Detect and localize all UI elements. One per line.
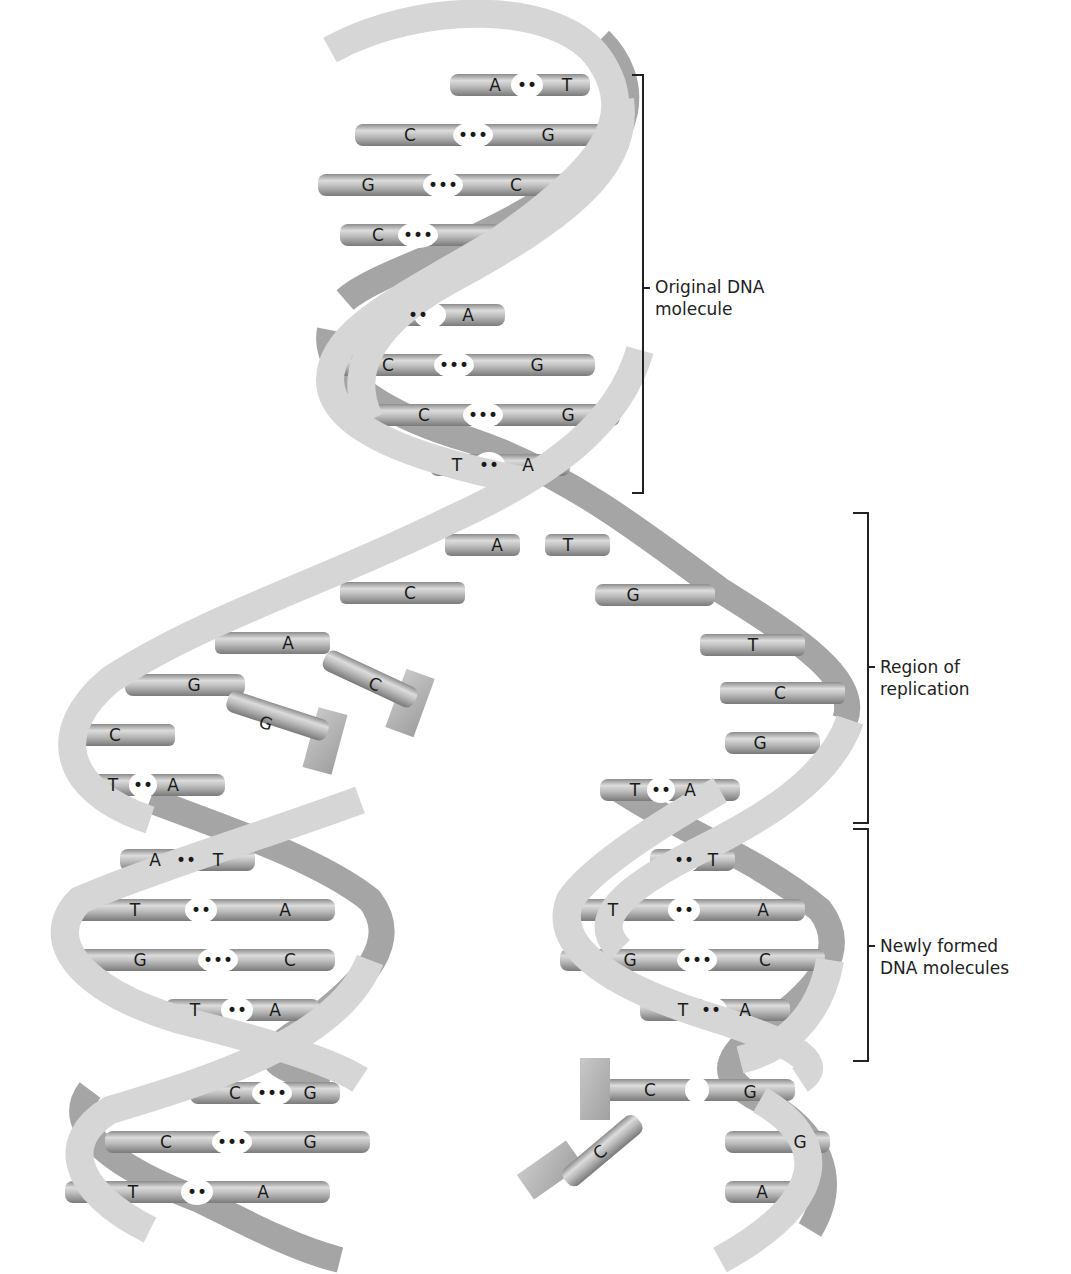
svg-text:G: G bbox=[303, 1132, 316, 1152]
svg-text:C: C bbox=[418, 405, 430, 425]
svg-text:A: A bbox=[269, 1000, 281, 1020]
svg-text:G: G bbox=[303, 1083, 316, 1103]
svg-text:T: T bbox=[127, 1182, 139, 1202]
svg-text:G: G bbox=[541, 125, 554, 145]
svg-text:T: T bbox=[677, 1000, 689, 1020]
svg-text:A: A bbox=[757, 900, 769, 920]
svg-text:••: •• bbox=[701, 1000, 721, 1020]
svg-text:•••: ••• bbox=[458, 125, 488, 145]
newly-formed-bracket bbox=[853, 828, 869, 1062]
svg-text:••: •• bbox=[191, 900, 211, 920]
svg-text:A: A bbox=[756, 1182, 768, 1202]
svg-text:••: •• bbox=[674, 900, 694, 920]
svg-text:••: •• bbox=[227, 1000, 247, 1020]
svg-text:T: T bbox=[189, 1000, 201, 1020]
svg-text:A: A bbox=[522, 455, 534, 475]
svg-text:T: T bbox=[129, 900, 141, 920]
svg-text:G: G bbox=[623, 950, 636, 970]
svg-text:G: G bbox=[133, 950, 146, 970]
svg-text:•••: ••• bbox=[439, 355, 469, 375]
svg-text:C: C bbox=[404, 125, 416, 145]
svg-text:•••: ••• bbox=[403, 225, 433, 245]
svg-text:G: G bbox=[753, 733, 766, 753]
svg-text:A: A bbox=[684, 780, 696, 800]
svg-text:•••: ••• bbox=[468, 405, 498, 425]
svg-text:A: A bbox=[282, 633, 294, 653]
svg-text:•••: ••• bbox=[217, 1132, 247, 1152]
replication-region-tick bbox=[869, 666, 875, 668]
svg-text:T: T bbox=[561, 75, 573, 95]
svg-text:C: C bbox=[510, 175, 522, 195]
svg-text:T: T bbox=[212, 850, 224, 870]
svg-text:•••: ••• bbox=[682, 950, 712, 970]
svg-text:A: A bbox=[739, 1000, 751, 1020]
svg-text:•••: ••• bbox=[428, 175, 458, 195]
svg-text:C: C bbox=[160, 1132, 172, 1152]
svg-text:G: G bbox=[187, 675, 200, 695]
newly-formed-tick bbox=[869, 945, 875, 947]
svg-text:G: G bbox=[361, 175, 374, 195]
svg-text:••: •• bbox=[479, 455, 499, 475]
original-molecule-label: Original DNA molecule bbox=[655, 276, 764, 320]
svg-text:C: C bbox=[644, 1080, 656, 1100]
svg-text:••: •• bbox=[674, 850, 694, 870]
svg-text:••: •• bbox=[187, 1182, 207, 1202]
svg-text:C: C bbox=[109, 725, 121, 745]
svg-text:C: C bbox=[774, 683, 786, 703]
svg-text:C: C bbox=[372, 225, 384, 245]
svg-text:A: A bbox=[489, 75, 501, 95]
svg-text:G: G bbox=[561, 405, 574, 425]
svg-text:••: •• bbox=[651, 780, 671, 800]
svg-text:A: A bbox=[462, 305, 474, 325]
svg-text:T: T bbox=[707, 850, 719, 870]
svg-text:T: T bbox=[451, 455, 463, 475]
replication-region-label: Region of replication bbox=[880, 656, 970, 700]
svg-text:C: C bbox=[404, 583, 416, 603]
svg-text:C: C bbox=[759, 950, 771, 970]
svg-text:••: •• bbox=[133, 775, 153, 795]
svg-text:A: A bbox=[279, 900, 291, 920]
newly-formed-label: Newly formed DNA molecules bbox=[880, 935, 1009, 979]
free-nucleotide-g bbox=[224, 689, 347, 775]
svg-text:A: A bbox=[149, 850, 161, 870]
svg-text:•••: ••• bbox=[203, 950, 233, 970]
original-molecule-bracket bbox=[632, 74, 644, 494]
svg-text:A: A bbox=[491, 535, 503, 555]
original-molecule-tick bbox=[644, 287, 650, 289]
svg-text:A: A bbox=[257, 1182, 269, 1202]
svg-text:G: G bbox=[626, 585, 639, 605]
svg-text:A: A bbox=[167, 775, 179, 795]
svg-text:G: G bbox=[793, 1132, 806, 1152]
svg-text:••: •• bbox=[176, 850, 196, 870]
svg-text:C: C bbox=[284, 950, 296, 970]
svg-text:T: T bbox=[747, 635, 759, 655]
svg-text:••: •• bbox=[408, 305, 428, 325]
svg-text:G: G bbox=[743, 1082, 756, 1102]
svg-text:T: T bbox=[629, 780, 641, 800]
svg-text:T: T bbox=[562, 535, 574, 555]
svg-text:C: C bbox=[382, 355, 394, 375]
dna-replication-diagram: A •• T C ••• G G ••• C C ••• •• A C ••• … bbox=[0, 0, 1071, 1274]
svg-text:••: •• bbox=[517, 75, 537, 95]
svg-text:T: T bbox=[607, 900, 619, 920]
svg-text:G: G bbox=[530, 355, 543, 375]
replication-region-bracket bbox=[853, 512, 869, 824]
svg-text:C: C bbox=[229, 1083, 241, 1103]
svg-text:•••: ••• bbox=[257, 1083, 287, 1103]
svg-text:T: T bbox=[107, 775, 119, 795]
